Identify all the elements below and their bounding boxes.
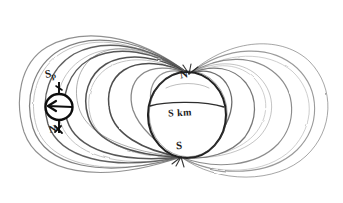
label-compass-south-pole-subscript: p: [51, 71, 57, 81]
magnetic-field-diagram: [0, 0, 343, 203]
compass-needle: [48, 106, 72, 107]
label-earth-body: S km: [168, 107, 192, 118]
label-north-pole: N: [179, 68, 189, 80]
label-south-pole: S: [176, 140, 183, 151]
